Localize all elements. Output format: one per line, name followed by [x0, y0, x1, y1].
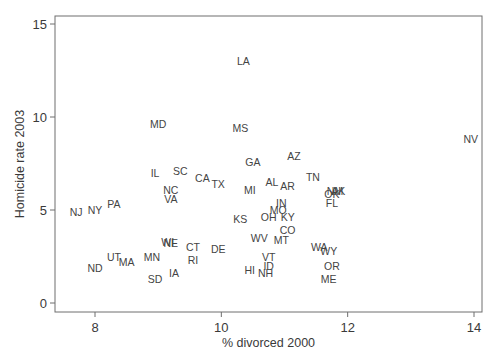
point-label-ga: GA: [245, 156, 260, 168]
point-label-tx: TX: [211, 178, 224, 190]
point-label-ia: IA: [169, 267, 179, 279]
point-label-va: VA: [164, 193, 177, 205]
point-label-wv: WV: [251, 232, 268, 244]
point-label-wy: WY: [320, 245, 337, 257]
y-tick-label: 15: [33, 17, 47, 32]
x-tick-label: 14: [467, 320, 481, 335]
point-label-sc: SC: [173, 165, 188, 177]
scatter-chart: 8101214 051015 LANVMDMSGAAZILSCCATXMIALA…: [0, 0, 496, 362]
x-axis-label: % divorced 2000: [222, 336, 315, 350]
point-label-ky: KY: [281, 211, 295, 223]
y-tick-label: 0: [40, 296, 47, 311]
point-label-mt: MT: [274, 234, 290, 246]
point-label-sd: SD: [148, 273, 163, 285]
point-label-fl: FL: [326, 197, 338, 209]
point-label-ma: MA: [119, 256, 135, 268]
y-tick-label: 5: [40, 203, 47, 218]
point-label-nv: NV: [464, 133, 479, 145]
point-label-ct: CT: [186, 241, 201, 253]
x-tick-label: 10: [214, 320, 228, 335]
y-tick-label: 10: [33, 110, 47, 125]
point-label-md: MD: [150, 118, 167, 130]
data-points: LANVMDMSGAAZILSCCATXMIALARTNNMAKOKFLNCVA…: [70, 55, 479, 285]
point-label-tn: TN: [306, 171, 320, 183]
point-label-hi: HI: [245, 264, 256, 276]
point-label-ar: AR: [280, 180, 295, 192]
point-label-mi: MI: [244, 184, 256, 196]
point-label-ca: CA: [195, 172, 210, 184]
point-label-ms: MS: [232, 122, 248, 134]
point-label-il: IL: [151, 167, 160, 179]
y-axis-label: Homicide rate 2003: [13, 110, 27, 218]
x-tick-label: 12: [340, 320, 354, 335]
point-label-nj: NJ: [70, 206, 83, 218]
point-label-al: AL: [265, 176, 278, 188]
point-label-az: AZ: [287, 150, 301, 162]
y-axis: 051015: [33, 17, 55, 311]
point-label-nh: NH: [258, 267, 273, 279]
x-axis: 8101214: [91, 312, 481, 335]
point-label-ne: NE: [164, 237, 179, 249]
point-label-ny: NY: [88, 204, 103, 216]
point-label-me: ME: [321, 273, 337, 285]
point-label-ri: RI: [188, 254, 199, 266]
point-label-pa: PA: [107, 198, 120, 210]
point-label-or: OR: [324, 260, 340, 272]
x-tick-label: 8: [91, 320, 98, 335]
point-label-ks: KS: [233, 213, 247, 225]
point-label-nd: ND: [87, 262, 103, 274]
point-label-oh: OH: [261, 211, 277, 223]
point-label-de: DE: [211, 243, 226, 255]
point-label-la: LA: [237, 55, 250, 67]
point-label-mn: MN: [144, 251, 160, 263]
